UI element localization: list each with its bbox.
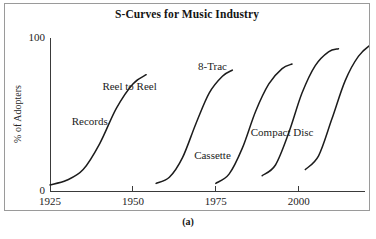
s-curve-8-trac: [216, 64, 292, 183]
x-tick-label: 1950: [122, 195, 145, 207]
x-tick-label: 2000: [288, 195, 311, 207]
x-tick-label: 1925: [39, 195, 62, 207]
figure-caption: (a): [0, 216, 376, 227]
y-axis-title: % of Adopters: [12, 85, 23, 143]
figure-container: S-Curves for Music Industry 100 0 % of A…: [0, 0, 376, 239]
x-tick-label: 1975: [205, 195, 228, 207]
x-axis: 1925195019752000: [39, 186, 365, 207]
curve-label-reel-to-reel: Reel to Reel: [102, 80, 156, 92]
s-curve-chart: S-Curves for Music Industry 100 0 % of A…: [5, 4, 369, 210]
curve-label-cassette: Cassette: [194, 149, 231, 161]
curve-label-8-trac: 8-Trac: [198, 60, 227, 72]
s-curve-reel-to-reel: [156, 70, 232, 183]
y-axis: 100 0 % of Adopters: [12, 31, 50, 196]
chart-frame: S-Curves for Music Industry 100 0 % of A…: [4, 3, 370, 211]
y-tick-label-100: 100: [29, 31, 46, 43]
x-tick-group: 1925195019752000: [39, 186, 310, 207]
curve-label-compact-disc: Compact Disc: [251, 126, 314, 138]
curve-labels-group: RecordsReel to Reel8-TracCassetteCompact…: [72, 60, 314, 161]
s-curve-compact-disc: [305, 41, 369, 170]
s-curve-cassette: [262, 49, 338, 176]
chart-title: S-Curves for Music Industry: [115, 8, 259, 21]
curve-label-records: Records: [72, 115, 108, 127]
